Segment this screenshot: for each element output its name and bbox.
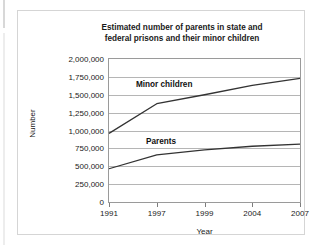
series-label-minor-children: Minor children bbox=[136, 80, 192, 89]
y-axis-tick-label: 1,500,000 bbox=[48, 90, 104, 99]
x-axis-title: Year bbox=[108, 227, 301, 236]
chart-screenshot: Estimated number of parents in state and… bbox=[0, 0, 320, 250]
chart-title-line-2: federal prisons and their minor children bbox=[76, 33, 288, 44]
y-axis-tick-label: 750,000 bbox=[48, 144, 104, 153]
y-axis-tick-label: 250,000 bbox=[48, 180, 104, 189]
y-axis-tick-label: 0 bbox=[48, 198, 104, 207]
left-edge-artifact-lower bbox=[3, 33, 5, 245]
y-axis-title: Number bbox=[28, 94, 37, 154]
x-axis-tick-label: 2007 bbox=[280, 209, 320, 218]
x-axis-tick-label: 1999 bbox=[185, 209, 225, 218]
x-axis-tick-mark bbox=[252, 203, 253, 207]
x-axis-tick-label: 2004 bbox=[232, 209, 272, 218]
x-axis-tick-label: 1997 bbox=[137, 209, 177, 218]
x-axis-tick-mark bbox=[300, 203, 301, 207]
x-axis-tick-mark bbox=[109, 203, 110, 207]
y-axis-tick-label: 2,000,000 bbox=[48, 55, 104, 64]
series-label-parents: Parents bbox=[146, 137, 176, 146]
x-axis-tick-label: 1991 bbox=[89, 209, 129, 218]
chart-title: Estimated number of parents in state and… bbox=[76, 22, 288, 44]
x-axis-tick-mark bbox=[157, 203, 158, 207]
figure-container: Estimated number of parents in state and… bbox=[17, 10, 305, 235]
y-axis-tick-label: 500,000 bbox=[48, 162, 104, 171]
y-axis-tick-label: 1,750,000 bbox=[48, 72, 104, 81]
left-edge-artifact bbox=[3, 0, 5, 28]
chart-title-line-1: Estimated number of parents in state and bbox=[76, 22, 288, 33]
y-axis-tick-label: 1,250,000 bbox=[48, 108, 104, 117]
series-line bbox=[109, 144, 300, 169]
y-axis-tick-label: 1,000,000 bbox=[48, 126, 104, 135]
x-axis-tick-mark bbox=[205, 203, 206, 207]
